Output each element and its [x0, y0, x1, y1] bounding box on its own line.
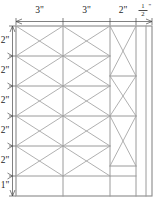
fraction-denominator: 2 — [141, 10, 144, 17]
left-dim-label-row-6: 1" — [1, 180, 10, 190]
top-dim-label-col-2: 3" — [82, 5, 91, 15]
left-dim-label-row-5: 2" — [1, 155, 10, 165]
brace-cell-R2 — [110, 76, 136, 116]
top-dim-label-col-3: 2" — [119, 5, 128, 15]
brace-cell-M1 — [63, 26, 110, 56]
bracing-middle-bay — [63, 26, 110, 176]
bracing-left-bay — [16, 26, 63, 176]
brace-cell-L4 — [16, 116, 63, 146]
diagram-canvas: 3" 3" 2" 1 2 " 2" — [0, 0, 159, 208]
brace-cell-L1 — [16, 26, 63, 56]
brace-cell-M3 — [63, 86, 110, 116]
left-dim-label-row-1: 2" — [1, 35, 10, 45]
brace-cell-L5 — [16, 146, 63, 176]
brace-cell-R1 — [110, 26, 136, 76]
brace-cell-M2 — [63, 56, 110, 86]
left-dim-label-row-4: 2" — [1, 125, 10, 135]
braced-panel-diagram: 3" 3" 2" 1 2 " 2" — [0, 0, 159, 208]
brace-cell-M5 — [63, 146, 110, 176]
left-dimension-group — [8, 26, 17, 196]
top-dim-label-col-1: 3" — [35, 5, 44, 15]
fraction-inch-mark: " — [149, 2, 152, 9]
left-dim-label-row-2: 2" — [1, 65, 10, 75]
left-dim-label-row-3: 2" — [1, 95, 10, 105]
brace-cell-L3 — [16, 86, 63, 116]
brace-cell-M4 — [63, 116, 110, 146]
brace-cell-L2 — [16, 56, 63, 86]
top-dimension-group — [16, 18, 152, 25]
panel-outer-frame — [16, 26, 152, 196]
bracing-right-bay — [110, 26, 136, 166]
brace-cell-R3 — [110, 116, 136, 166]
top-dim-label-col-4-fraction: 1 2 " — [139, 2, 152, 17]
fraction-numerator: 1 — [141, 2, 144, 9]
